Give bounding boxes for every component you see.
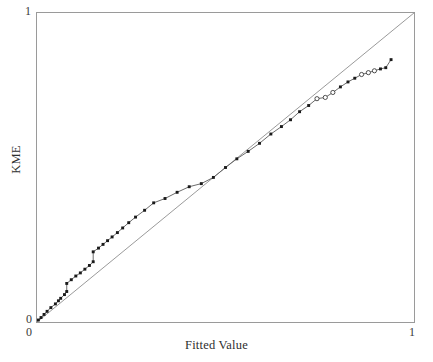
data-point [258,142,261,145]
data-point [46,310,49,313]
y-axis-tick-max: 1 [25,5,31,17]
data-point [106,239,109,242]
data-point [83,268,86,271]
data-point [212,176,215,179]
data-point [97,247,100,250]
data-point [102,243,105,246]
data-point [347,80,350,83]
data-point [390,58,393,61]
data-point [70,278,73,281]
kme-step-line [38,60,391,320]
data-point [40,316,43,319]
data-point [235,157,238,160]
data-point [188,185,191,188]
data-point [59,297,62,300]
data-point [224,166,227,169]
data-point [247,150,250,153]
data-point [54,302,57,305]
data-point [307,104,310,107]
data-point [339,85,342,88]
data-point [65,290,68,293]
plot-canvas [0,0,433,362]
data-point [152,201,155,204]
kme-fitted-value-chart: 1 0 0 1 Fitted Value KME [0,0,433,362]
data-point [384,66,387,69]
data-point [74,275,77,278]
data-point [111,235,114,238]
data-point-markers [37,58,393,321]
data-point [116,231,119,234]
data-point [134,216,137,219]
data-point [49,306,52,309]
data-point [88,264,91,267]
censored-point [366,71,370,75]
censored-point [372,69,376,73]
data-point [37,319,40,322]
data-point [65,282,68,285]
data-point [280,125,283,128]
data-point [121,227,124,230]
censored-point [359,72,363,76]
censored-point-markers [315,69,377,101]
data-line-group [38,60,391,320]
data-point [379,67,382,70]
censored-point [323,95,327,99]
x-axis-tick-max: 1 [409,326,415,338]
censored-point [315,97,319,101]
data-point [164,197,167,200]
censored-point [331,90,335,94]
data-point [176,191,179,194]
data-point [92,260,95,263]
data-point [200,182,203,185]
x-axis-title: Fitted Value [0,338,433,353]
data-point [353,77,356,80]
y-axis-title: KME [9,130,24,190]
data-point [63,293,66,296]
data-point [43,313,46,316]
data-point [269,133,272,136]
x-axis-tick-min: 0 [26,326,32,338]
y-axis-tick-min: 0 [26,313,32,325]
data-point [79,271,82,274]
data-point [127,221,130,224]
data-point [92,250,95,253]
data-point [289,118,292,121]
data-point [143,209,146,212]
data-point [298,110,301,113]
data-point [57,299,60,302]
